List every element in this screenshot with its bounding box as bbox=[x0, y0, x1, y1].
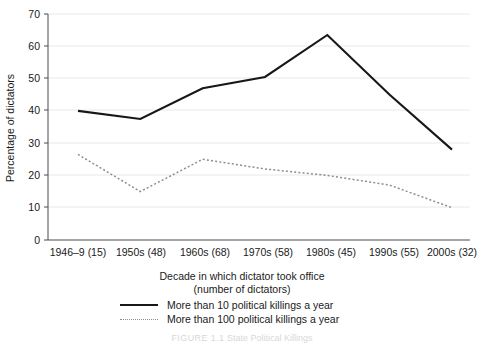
chart-legend: More than 10 political killings a year M… bbox=[0, 299, 484, 325]
y-tick-20: 20 bbox=[28, 169, 40, 181]
y-tick-10: 10 bbox=[28, 201, 40, 213]
y-tick-marks bbox=[44, 14, 48, 240]
series-more-than-100-killings bbox=[78, 154, 452, 207]
x-tick-1950s: 1950s (48) bbox=[116, 246, 166, 258]
x-tick-1980s: 1980s (45) bbox=[306, 246, 356, 258]
plot-area: Percentage of dictators bbox=[0, 0, 484, 268]
figure-caption-text: State Political Killings bbox=[227, 333, 313, 343]
y-tick-40: 40 bbox=[28, 104, 40, 116]
legend-item-more-than-10: More than 10 political killings a year bbox=[116, 299, 368, 311]
x-tick-2000s: 2000s (32) bbox=[427, 246, 477, 258]
y-tick-60: 60 bbox=[28, 40, 40, 52]
x-tick-1960s: 1960s (68) bbox=[180, 246, 230, 258]
y-tick-30: 30 bbox=[28, 137, 40, 149]
legend-label-more-than-10: More than 10 political killings a year bbox=[167, 299, 333, 311]
x-tick-1970s: 1970s (58) bbox=[243, 246, 293, 258]
y-axis-title: Percentage of dictators bbox=[4, 74, 16, 182]
x-axis-title-line2: (number of dictators) bbox=[0, 283, 484, 296]
legend-solid-line-icon bbox=[116, 300, 158, 310]
series-more-than-10-killings bbox=[78, 35, 452, 150]
legend-item-more-than-100: More than 100 political killings a year bbox=[116, 313, 368, 325]
line-chart: Percentage of dictators bbox=[0, 0, 484, 268]
figure-caption-tag: FIGURE 1.1 bbox=[171, 333, 224, 343]
y-tick-0: 0 bbox=[34, 234, 40, 246]
x-tick-1990s: 1990s (55) bbox=[369, 246, 419, 258]
legend-dotted-line-icon bbox=[116, 314, 158, 324]
y-tick-70: 70 bbox=[28, 8, 40, 20]
legend-label-more-than-100: More than 100 political killings a year bbox=[167, 313, 339, 325]
figure-caption: FIGURE 1.1 State Political Killings bbox=[0, 333, 484, 343]
x-axis-title-line1: Decade in which dictator took office bbox=[0, 270, 484, 283]
x-tick-1946-9: 1946–9 (15) bbox=[50, 246, 107, 258]
y-tick-50: 50 bbox=[28, 72, 40, 84]
